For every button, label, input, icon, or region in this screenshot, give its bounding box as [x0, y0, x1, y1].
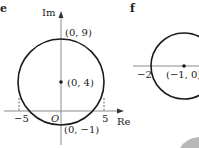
- panel-letter-f: f: [130, 3, 135, 15]
- center-point-e: [59, 80, 63, 84]
- center-point-f: [182, 64, 186, 68]
- real-axis-arrow-icon: [117, 109, 124, 114]
- real-axis-label: Re: [117, 116, 130, 127]
- panel-f-graphics: [133, 33, 199, 99]
- gray-blob-decoration: [180, 137, 199, 148]
- point-label-top: (0, 9): [65, 27, 92, 38]
- point-label-center: (0, 4): [67, 77, 94, 88]
- origin-label: O: [51, 113, 59, 124]
- imaginary-axis-arrow-icon: [59, 11, 64, 18]
- point-label-bottom: (0, −1): [64, 124, 99, 135]
- point-label-f-center: (−1, 0): [166, 69, 199, 80]
- imaginary-axis-label: Im: [42, 7, 55, 18]
- panel-letter-e: e: [0, 3, 7, 15]
- tick-label-neg2: −2: [137, 69, 152, 80]
- tick-label-neg5: −5: [14, 113, 29, 124]
- tick-label-5: 5: [102, 113, 108, 124]
